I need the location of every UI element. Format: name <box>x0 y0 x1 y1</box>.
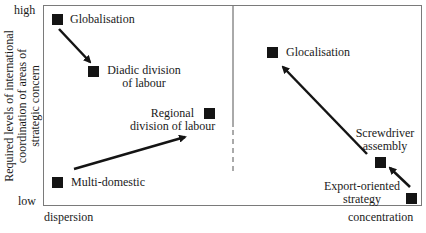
x-axis-left-label: dispersion <box>44 211 93 224</box>
arrow-multidomestic-to-regional <box>74 137 185 169</box>
node-glocalisation-label: Glocalisation <box>286 46 350 59</box>
node-regional-label: Regional division of labour <box>130 107 202 133</box>
arrow-globalisation-to-diadic <box>59 29 90 62</box>
node-diadic-label: Diadic division of labour <box>104 64 184 90</box>
node-diadic-label-line-2: of labour <box>104 77 184 90</box>
node-multi-domestic-marker <box>52 177 63 188</box>
node-diadic-marker <box>88 66 99 77</box>
node-multi-domestic-label: Multi-domestic <box>71 176 145 189</box>
node-globalisation-marker <box>52 14 63 25</box>
node-export-label-line-2: strategy <box>320 193 404 206</box>
y-axis-title-line-3: strategic concern <box>29 30 42 182</box>
node-globalisation-label: Globalisation <box>70 13 135 26</box>
node-export-marker <box>406 193 417 204</box>
x-axis-right-label: concentration <box>348 211 413 224</box>
node-glocalisation-marker <box>267 47 278 58</box>
node-regional-marker <box>204 108 215 119</box>
node-regional-label-line-2: division of labour <box>130 120 202 133</box>
node-screwdriver-marker <box>375 157 386 168</box>
node-screwdriver-label: Screwdriver assembly <box>345 127 425 153</box>
y-axis-high-label: high <box>14 4 35 17</box>
y-axis-low-label: low <box>18 195 36 208</box>
node-export-label: Export-oriented strategy <box>320 180 404 206</box>
node-screwdriver-label-line-2: assembly <box>345 140 425 153</box>
